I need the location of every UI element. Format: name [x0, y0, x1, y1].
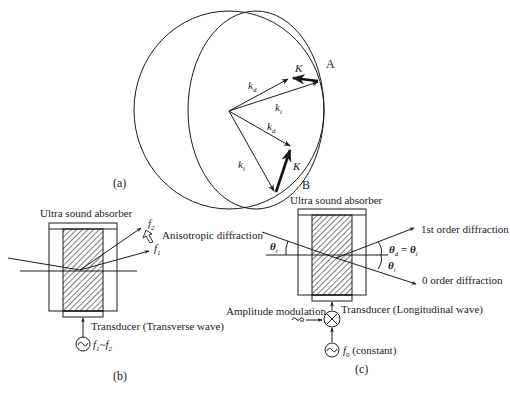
panel-a-caption: (a) [113, 176, 126, 190]
amplitude-modulation-label: Amplitude modulation [226, 305, 326, 317]
first-order-label: 1st order diffraction [421, 223, 509, 235]
ki-top-label: ki [275, 101, 282, 116]
theta-d-equation: θd = θi [389, 243, 418, 258]
panel-a: kd ki K A kd ki K B (a) [113, 11, 335, 209]
panel-b-caption: (b) [113, 369, 127, 383]
K-bottom-vector [276, 150, 290, 192]
zero-order-label: 0 order diffraction [422, 274, 503, 286]
panel-c: Ultra sound absorber θi θd = θi θi 1st o… [226, 194, 509, 376]
ki-bottom-label: ki [238, 158, 245, 173]
theta-i2-label: θi [388, 259, 396, 274]
transducer-b [63, 311, 103, 317]
theta-i2-arc [378, 255, 382, 269]
f1-label: f1 [154, 242, 161, 257]
sine-glyph-c [327, 348, 337, 352]
outer-index-sphere [134, 11, 324, 209]
kd-bottom-label: kd [267, 120, 276, 135]
panel-b: Ultra sound absorber f2 f1 Anisotropic d… [8, 207, 263, 383]
point-b-label: B [302, 178, 310, 192]
panel-c-caption: (c) [355, 362, 368, 376]
f2-label: f2 [148, 217, 155, 232]
transducer-c [312, 295, 352, 301]
absorber-label-b: Ultra sound absorber [40, 207, 133, 219]
K-top-label: K [294, 62, 303, 74]
source-label-b: f1~f2 [93, 338, 113, 353]
absorber-label-c: Ultra sound absorber [290, 194, 383, 206]
anisotropic-diffraction-label: Anisotropic diffraction [162, 229, 263, 241]
acousto-optic-diagram: kd ki K A kd ki K B (a) Ultra sound abso… [0, 0, 510, 394]
theta-d-arc [378, 242, 382, 255]
K-bottom-label: K [292, 160, 301, 172]
kd-bottom-vector [229, 111, 290, 146]
modulation-wave-icon [292, 318, 304, 321]
crystal-b [63, 229, 103, 311]
source-label-c: f0 (constant) [343, 344, 397, 359]
theta-i-arc [286, 241, 288, 255]
kd-top-label: kd [248, 79, 257, 94]
transducer-label-c: Transducer (Longitudinal wave) [341, 303, 483, 316]
point-a-label: A [326, 57, 335, 71]
theta-i-label: θi [270, 240, 278, 255]
transducer-label-b: Transducer (Transverse wave) [91, 320, 224, 333]
K-top-vector [293, 78, 318, 81]
sine-glyph-b [78, 342, 88, 346]
